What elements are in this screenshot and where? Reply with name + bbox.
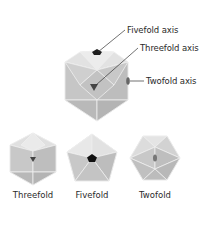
twofold-axis-label: Twofold axis xyxy=(146,76,196,86)
threefold-axis-label: Threefold axis xyxy=(140,43,199,53)
fivefold-caption: Fivefold xyxy=(70,190,114,200)
twofold-marker-icon xyxy=(126,77,130,85)
threefold-caption: Threefold xyxy=(8,190,58,200)
twofold-view-marker-icon xyxy=(153,155,157,162)
twofold-caption: Twofold xyxy=(134,190,176,200)
fivefold-axis-label: Fivefold axis xyxy=(127,25,178,35)
fivefold-leader-line xyxy=(98,30,125,52)
